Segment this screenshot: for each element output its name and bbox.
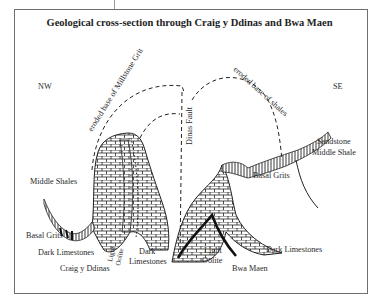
se-label: SE bbox=[333, 82, 343, 91]
dark-limestones-right-label: Dark Limestones bbox=[266, 245, 322, 254]
dark-limestones-left-label: Dark Limestones bbox=[38, 248, 94, 257]
bwa-maen-label: Bwa Maen bbox=[232, 264, 268, 273]
middle-shale-right-label: Middle Shale bbox=[312, 148, 356, 157]
cross-section-diagram: NW SE eroded base of Millstone Grit erod… bbox=[0, 0, 379, 307]
millstone-label: eroded base of Millstone Grit bbox=[86, 46, 145, 133]
oolite-label-right: Oolite bbox=[202, 256, 223, 265]
shales-curve bbox=[192, 78, 282, 161]
right-shales bbox=[222, 132, 331, 208]
fault-label: Dinas Fault bbox=[185, 106, 194, 145]
basal-grits-right-label: Basal Grits bbox=[253, 171, 290, 180]
limestones-label-mid: Limestones bbox=[129, 257, 167, 266]
shales-label: eroded base of shales bbox=[232, 65, 290, 118]
nw-label: NW bbox=[38, 82, 52, 91]
basal-grits-left-label: Basal Grits bbox=[26, 231, 63, 240]
light-label-right: Light bbox=[204, 246, 222, 255]
sandstone-label: Sandstone bbox=[317, 137, 351, 146]
craig-y-ddinas-label: Craig y Ddinas bbox=[60, 264, 110, 273]
dark-label-mid: Dark bbox=[139, 247, 156, 256]
middle-shales-left-label: Middle Shales bbox=[30, 177, 77, 186]
inner-curve bbox=[140, 114, 180, 138]
craig-y-ddinas-fold bbox=[92, 133, 169, 252]
